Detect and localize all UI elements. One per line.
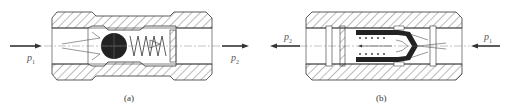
body-bottom-wall-a — [52, 62, 212, 80]
body-top-wall-a — [52, 12, 212, 30]
pressure-label-p1-a: p1 — [27, 52, 35, 65]
outlet-arrow-a — [222, 44, 249, 49]
inlet-arrow-b — [471, 44, 500, 49]
poppet-sleeve-top — [356, 30, 398, 35]
valve-a — [10, 12, 249, 80]
outlet-arrow-b — [270, 44, 300, 49]
caption-a: (a) — [124, 93, 134, 103]
inlet-arrow-a — [10, 44, 42, 49]
pressure-label-p2-a: p2 — [231, 52, 239, 65]
body-top-wall-b — [306, 12, 462, 28]
valve-b — [270, 12, 500, 80]
pressure-label-p1-b: p1 — [484, 31, 492, 44]
pressure-label-p2-b: p2 — [284, 31, 292, 44]
caption-b: (b) — [376, 93, 387, 103]
poppet-sleeve-bottom — [356, 57, 398, 62]
body-bottom-wall-b — [306, 64, 462, 80]
check-valve-diagram — [0, 0, 507, 110]
